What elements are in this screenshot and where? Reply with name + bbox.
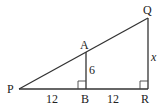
label-Q: Q — [143, 3, 152, 17]
right-angle-marker-B — [78, 81, 86, 89]
measure-BR: 12 — [107, 92, 119, 106]
triangle-diagram: P B R A Q 12 12 6 x — [0, 0, 163, 107]
label-P: P — [7, 82, 14, 96]
label-A: A — [80, 38, 89, 52]
measure-PB: 12 — [46, 92, 58, 106]
label-B: B — [81, 92, 89, 106]
segment-PQ — [19, 18, 148, 89]
measure-AB: 6 — [89, 63, 95, 77]
label-R: R — [141, 92, 149, 106]
measure-QR: x — [150, 50, 157, 64]
right-angle-marker-R — [140, 81, 148, 89]
